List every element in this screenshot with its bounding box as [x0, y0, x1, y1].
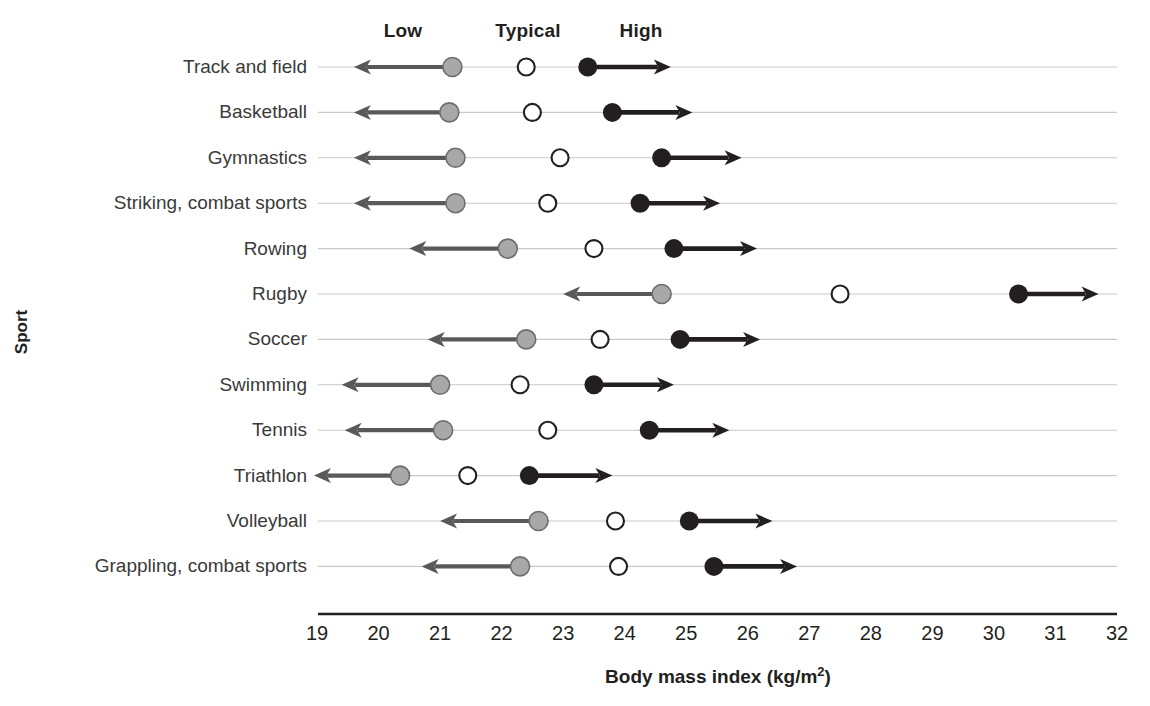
- high-marker: [671, 330, 690, 349]
- x-tick-label: 22: [490, 622, 512, 645]
- low-marker: [511, 557, 530, 576]
- typical-marker: [459, 467, 476, 484]
- low-marker: [446, 194, 465, 213]
- high-marker: [680, 512, 699, 531]
- typical-marker: [518, 59, 535, 76]
- low-marker: [431, 375, 450, 394]
- high-marker: [640, 421, 659, 440]
- x-tick-label: 25: [675, 622, 697, 645]
- x-tick-label: 27: [798, 622, 820, 645]
- low-marker: [434, 421, 453, 440]
- high-marker: [520, 466, 539, 485]
- low-marker: [652, 285, 671, 304]
- typical-marker: [832, 286, 849, 303]
- x-tick-label: 19: [306, 622, 328, 645]
- typical-marker: [524, 104, 541, 121]
- low-marker: [440, 103, 459, 122]
- typical-marker: [592, 331, 609, 348]
- low-marker: [529, 512, 548, 531]
- high-marker: [1009, 285, 1028, 304]
- low-marker: [517, 330, 536, 349]
- plot-area: [0, 0, 1150, 706]
- x-tick-label: 28: [860, 622, 882, 645]
- x-tick-label: 26: [737, 622, 759, 645]
- low-marker: [391, 466, 410, 485]
- typical-marker: [539, 422, 556, 439]
- x-tick-label: 24: [614, 622, 636, 645]
- typical-marker: [552, 149, 569, 166]
- typical-marker: [610, 558, 627, 575]
- typical-marker: [539, 195, 556, 212]
- typical-marker: [585, 240, 602, 257]
- typical-marker: [607, 513, 624, 530]
- typical-marker: [512, 376, 529, 393]
- high-marker: [652, 148, 671, 167]
- high-marker: [631, 194, 650, 213]
- x-axis-title: Body mass index (kg/m2): [605, 664, 831, 688]
- low-marker: [446, 148, 465, 167]
- x-tick-label: 23: [552, 622, 574, 645]
- bmi-range-chart: LowTypicalHigh Sport Track and fieldBask…: [0, 0, 1150, 706]
- high-marker: [578, 58, 597, 77]
- x-tick-label: 21: [429, 622, 451, 645]
- high-marker: [584, 375, 603, 394]
- x-tick-label: 31: [1044, 622, 1066, 645]
- x-tick-label: 32: [1106, 622, 1128, 645]
- x-tick-label: 29: [921, 622, 943, 645]
- high-marker: [603, 103, 622, 122]
- high-marker: [704, 557, 723, 576]
- high-marker: [664, 239, 683, 258]
- x-tick-label: 20: [367, 622, 389, 645]
- low-marker: [443, 58, 462, 77]
- low-marker: [498, 239, 517, 258]
- x-tick-label: 30: [983, 622, 1005, 645]
